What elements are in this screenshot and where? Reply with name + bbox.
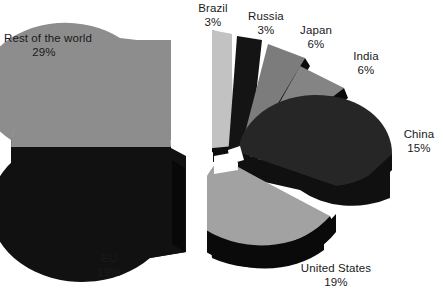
slice-label-japan-value: 6%: [294, 38, 338, 52]
slice-label-china-name: China: [398, 128, 440, 142]
slice-label-united-states-name: United States: [294, 262, 378, 276]
slice-label-rest-of-the-world: Rest of the world 29%: [4, 32, 92, 59]
slice-label-russia-value: 3%: [243, 24, 289, 38]
slice-eu-offset-side: [172, 160, 185, 252]
slice-label-russia: Russia 3%: [243, 10, 289, 37]
slice-label-russia-name: Russia: [243, 10, 289, 24]
slice-label-eu: EU 19%: [86, 252, 132, 279]
slice-label-china: China 15%: [398, 128, 440, 155]
slice-label-india-name: India: [345, 50, 387, 64]
left-group-divider: [11, 146, 171, 154]
slice-label-brazil-value: 3%: [193, 16, 233, 30]
slice-label-brazil: Brazil 3%: [193, 2, 233, 29]
slice-label-india-value: 6%: [345, 64, 387, 78]
slice-label-brazil-name: Brazil: [193, 2, 233, 16]
slice-label-india: India 6%: [345, 50, 387, 77]
slice-label-rest-of-the-world-value: 29%: [4, 46, 92, 60]
group-separator: [187, 0, 207, 295]
slice-label-rest-of-the-world-name: Rest of the world: [4, 32, 92, 46]
slice-label-china-value: 15%: [398, 142, 440, 156]
slice-label-united-states-value: 19%: [294, 276, 378, 290]
pie-chart: Rest of the world 29% EU 19% Brazil 3% R…: [0, 0, 443, 295]
slice-label-eu-name: EU: [86, 252, 132, 266]
slice-label-eu-value: 19%: [86, 266, 132, 280]
slice-label-japan-name: Japan: [294, 24, 338, 38]
slice-label-united-states: United States 19%: [294, 262, 378, 289]
slice-label-japan: Japan 6%: [294, 24, 338, 51]
